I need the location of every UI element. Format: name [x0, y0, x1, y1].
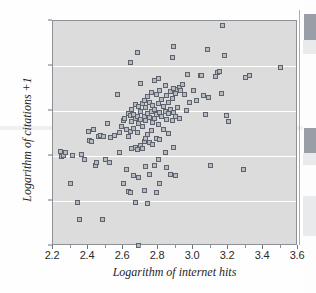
data-point: [159, 114, 164, 119]
data-point: [171, 145, 176, 150]
y-axis-tick-mark: [48, 110, 52, 111]
data-point: [191, 88, 196, 93]
x-axis-tick-label: 2.6: [109, 249, 135, 261]
scan-artifact-block: [304, 128, 316, 153]
data-point: [152, 107, 157, 112]
data-point: [163, 150, 168, 155]
data-point: [164, 165, 169, 170]
data-point: [156, 122, 161, 127]
x-axis-tick-mark: [122, 245, 123, 249]
data-point: [107, 160, 112, 165]
data-point: [156, 157, 161, 162]
data-point: [177, 116, 182, 121]
y-axis-label: Logarithm of citations +1: [20, 25, 35, 255]
x-axis-tick-mark: [227, 245, 228, 249]
data-point: [115, 92, 120, 97]
gridline: [53, 66, 296, 67]
scan-artifact-haze: [303, 196, 316, 236]
scan-artifact-haze: [303, 153, 316, 165]
data-point: [143, 164, 148, 169]
x-axis-tick-label: 2.8: [144, 249, 170, 261]
x-axis-minor-tick-mark: [210, 245, 211, 248]
data-point: [145, 201, 150, 206]
data-point: [219, 91, 224, 96]
data-point: [143, 105, 148, 110]
x-axis-tick-label: 3.6: [284, 249, 310, 261]
data-point: [91, 127, 96, 132]
data-point: [173, 173, 178, 178]
data-point: [122, 116, 127, 121]
data-point: [133, 200, 138, 205]
data-point: [63, 150, 68, 155]
data-point: [149, 90, 154, 95]
data-point: [121, 181, 126, 186]
x-axis-minor-tick-mark: [70, 245, 71, 248]
data-point: [157, 181, 162, 186]
data-point: [217, 69, 222, 74]
data-point: [149, 128, 154, 133]
data-point: [168, 172, 173, 177]
plot-area: [52, 20, 297, 245]
x-axis-minor-tick-mark: [140, 245, 141, 248]
data-point: [86, 129, 91, 134]
data-point: [68, 181, 73, 186]
data-point: [135, 50, 140, 55]
data-point: [201, 93, 206, 98]
data-point: [140, 124, 145, 129]
data-point: [105, 121, 110, 126]
data-point: [138, 109, 143, 114]
data-point: [159, 97, 164, 102]
data-point: [77, 217, 82, 222]
data-point: [166, 111, 171, 116]
x-axis-minor-tick-mark: [175, 245, 176, 248]
gridline: [53, 156, 296, 157]
data-point: [152, 163, 157, 168]
data-point: [222, 53, 227, 58]
data-point: [247, 73, 252, 78]
data-point: [163, 83, 168, 88]
data-point: [206, 95, 211, 100]
data-point: [136, 175, 141, 180]
data-point: [117, 150, 122, 155]
x-axis-label: Logarithm of internet hits: [52, 265, 297, 280]
data-point: [203, 112, 208, 117]
x-axis-minor-tick-mark: [280, 245, 281, 248]
data-point: [150, 120, 155, 125]
data-point: [175, 105, 180, 110]
y-axis-tick-mark: [48, 20, 52, 21]
data-point: [150, 142, 155, 147]
data-point: [205, 47, 210, 52]
scatter-plot-figure: Logarithm of citations +1 Logarithm of i…: [0, 0, 316, 293]
data-point: [208, 163, 213, 168]
data-point: [82, 157, 87, 162]
data-point: [241, 167, 246, 172]
data-point: [180, 82, 185, 87]
scan-artifact-block: [304, 14, 316, 40]
data-point: [154, 92, 159, 97]
data-point: [226, 119, 231, 124]
data-point: [135, 130, 140, 135]
data-point: [145, 94, 150, 99]
x-axis-tick-mark: [52, 245, 53, 249]
data-point: [184, 108, 189, 113]
x-axis-tick-mark: [157, 245, 158, 249]
data-point: [138, 81, 143, 86]
data-point: [194, 98, 199, 103]
x-axis-tick-label: 3.0: [179, 249, 205, 261]
data-point: [131, 173, 136, 178]
data-point: [166, 100, 171, 105]
data-point: [164, 117, 169, 122]
data-point: [147, 172, 152, 177]
data-point: [140, 146, 145, 151]
data-point: [154, 190, 159, 195]
data-point: [79, 152, 84, 157]
x-axis-tick-mark: [192, 245, 193, 249]
data-point: [157, 88, 162, 93]
x-axis-tick-mark: [262, 245, 263, 249]
data-point: [156, 101, 161, 106]
data-point: [185, 72, 190, 77]
x-axis-tick-label: 3.2: [214, 249, 240, 261]
x-axis-tick-label: 2.4: [74, 249, 100, 261]
data-point: [124, 167, 129, 172]
scan-artifact-haze: [303, 40, 316, 54]
